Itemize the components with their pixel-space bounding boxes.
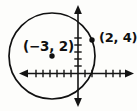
- x-axis-left-arrow-icon: [19, 70, 28, 78]
- center-point-label: (−3, 2): [23, 40, 74, 54]
- center-point-dot: [49, 53, 54, 58]
- y-axis-top-arrow-icon: [74, 5, 82, 14]
- x-axis-right-arrow-icon: [125, 70, 134, 78]
- y-axis-bottom-arrow-icon: [74, 98, 82, 107]
- x-axis-group: [19, 70, 134, 78]
- figure-canvas: [0, 0, 137, 111]
- circle-point-dot: [89, 37, 94, 42]
- circle-coordinate-figure: (−3, 2) (2, 4): [0, 0, 137, 111]
- circle-point-label: (2, 4): [99, 31, 137, 44]
